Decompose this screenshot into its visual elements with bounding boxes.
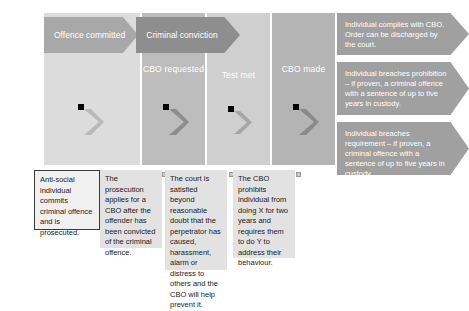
stage-label-cbo-made: CBO made — [272, 64, 335, 75]
chevron-arrow-icon-3 — [228, 106, 234, 112]
note-cbo-application: The prosecution applies for a CBO after … — [100, 170, 162, 248]
outcome-breach-prohibition-text: Individual breaches prohibition – if pro… — [345, 69, 446, 108]
note-cbo-terms: The CBO prohibits individual from doing … — [233, 170, 295, 258]
banner-offence-committed: Offence committed — [44, 17, 138, 53]
stage-separator-2 — [205, 40, 207, 165]
banner-criminal-conviction: Criminal conviction — [136, 17, 240, 53]
chevron-arrow-icon-1 — [78, 104, 84, 110]
stage-separator-3 — [270, 40, 272, 165]
note-cbo-application-text: The prosecution applies for a CBO after … — [105, 174, 155, 257]
note-prosecution-start: Anti-social individual commits criminal … — [34, 170, 100, 230]
outcome-breach-prohibition: Individual breaches prohibition – if pro… — [337, 62, 469, 115]
banner-criminal-conviction-label: Criminal conviction — [146, 30, 217, 41]
stage-separator-4 — [335, 40, 337, 165]
outcome-compliance: Individual complies with CBO. Order can … — [337, 13, 469, 55]
outcome-breach-requirement-text: Individual breaches requirement – if pro… — [345, 129, 445, 178]
stage-column-cbo-made — [272, 13, 335, 165]
stage-label-cbo-requested: CBO requested — [142, 64, 205, 75]
outcome-compliance-text: Individual complies with CBO. Order can … — [345, 20, 444, 49]
stage-separator-1 — [140, 40, 142, 165]
chevron-arrow-icon-2 — [163, 104, 169, 110]
note-court-test: The court is satisfied beyond reasonable… — [165, 170, 227, 270]
banner-offence-committed-label: Offence committed — [54, 30, 125, 41]
outcome-breach-requirement: Individual breaches requirement – if pro… — [337, 122, 469, 175]
note-court-test-text: The court is satisfied beyond reasonable… — [170, 174, 221, 309]
chevron-arrow-icon-4 — [293, 104, 299, 110]
stage-label-test-met: Test met — [207, 70, 270, 81]
note-prosecution-start-text: Anti-social individual commits criminal … — [40, 175, 92, 237]
note-connector-4 — [296, 172, 301, 177]
note-cbo-terms-text: The CBO prohibits individual from doing … — [238, 174, 288, 267]
